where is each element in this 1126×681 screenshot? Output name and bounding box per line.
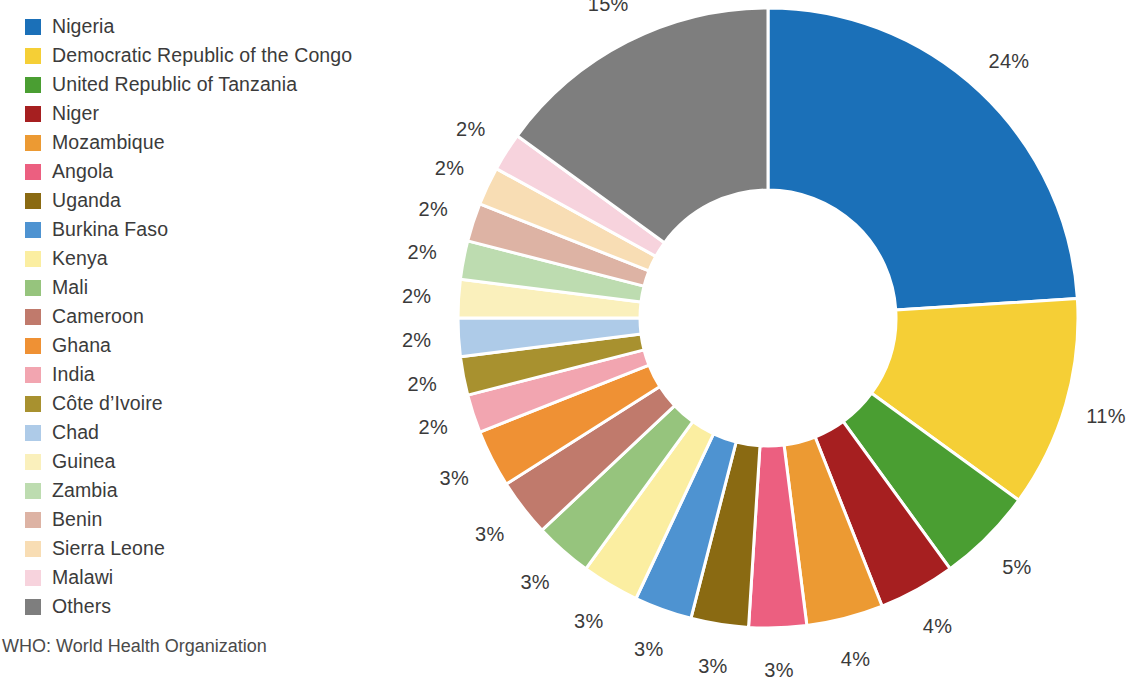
donut-slice [480, 365, 660, 484]
legend-item: Uganda [25, 186, 395, 215]
donut-slice [458, 318, 641, 357]
donut-slice [768, 8, 1077, 310]
slice-percentage-label: 3% [634, 638, 664, 661]
legend-swatch [25, 338, 41, 354]
legend-item: Niger [25, 99, 395, 128]
slice-percentage-label: 3% [698, 654, 728, 677]
donut-slice [843, 393, 1019, 569]
legend-swatch [25, 367, 41, 383]
slice-percentage-label: 2% [407, 372, 437, 395]
legend-swatch [25, 280, 41, 296]
legend-item-label: Mali [52, 278, 88, 298]
donut-slice [586, 422, 714, 599]
donut-slice [815, 422, 950, 607]
legend-item: Sierra Leone [25, 534, 395, 563]
legend-swatch [25, 222, 41, 238]
slice-percentage-label: 3% [440, 466, 470, 489]
footnote-text: WHO: World Health Organization [2, 636, 267, 657]
legend-item: Côte d’Ivoire [25, 389, 395, 418]
legend-item-label: Kenya [52, 249, 108, 269]
legend-item-label: India [52, 365, 95, 385]
legend-item: Nigeria [25, 12, 395, 41]
legend-item: Burkina Faso [25, 215, 395, 244]
legend-item: United Republic of Tanzania [25, 70, 395, 99]
slice-percentage-label: 3% [574, 609, 604, 632]
legend-item-label: Côte d’Ivoire [52, 394, 163, 414]
legend-item: Ghana [25, 331, 395, 360]
legend-swatch [25, 512, 41, 528]
legend-item-label: Democratic Republic of the Congo [52, 46, 352, 66]
legend-item-label: Cameroon [52, 307, 144, 327]
legend-item-label: Ghana [52, 336, 111, 356]
legend-item-label: Angola [52, 162, 113, 182]
slice-percentage-label: 2% [418, 415, 448, 438]
slice-percentage-label: 3% [764, 658, 794, 681]
legend-item-label: Others [52, 597, 111, 617]
legend-item: Zambia [25, 476, 395, 505]
legend-swatch [25, 164, 41, 180]
legend-swatch [25, 570, 41, 586]
legend-item: Benin [25, 505, 395, 534]
legend-swatch [25, 541, 41, 557]
slice-percentage-label: 15% [588, 0, 629, 16]
legend-swatch [25, 454, 41, 470]
legend-swatch [25, 251, 41, 267]
slice-percentage-label: 5% [1002, 555, 1032, 578]
legend-swatch [25, 48, 41, 64]
slice-percentage-label: 2% [435, 157, 465, 180]
legend-item-label: Burkina Faso [52, 220, 168, 240]
slice-percentage-label: 2% [402, 329, 432, 352]
legend-item-label: Chad [52, 423, 99, 443]
legend-swatch [25, 309, 41, 325]
legend-swatch [25, 106, 41, 122]
legend-item: Others [25, 592, 395, 621]
donut-slice [458, 279, 641, 318]
donut-slice [506, 387, 674, 531]
legend-item: Angola [25, 157, 395, 186]
donut-slice [460, 241, 644, 302]
legend-item-label: Uganda [52, 191, 121, 211]
donut-slice [542, 406, 693, 569]
legend-swatch [25, 599, 41, 615]
legend-swatch [25, 135, 41, 151]
slice-percentage-label: 11% [1086, 405, 1125, 428]
donut-slice [636, 434, 736, 618]
legend-item: Democratic Republic of the Congo [25, 41, 395, 70]
legend-item: Kenya [25, 244, 395, 273]
legend-item-label: Guinea [52, 452, 115, 472]
legend-item: Malawi [25, 563, 395, 592]
donut-slice [691, 442, 760, 627]
donut-slice [517, 8, 768, 243]
donut-slice [872, 299, 1078, 501]
chart-legend: NigeriaDemocratic Republic of the CongoU… [25, 12, 395, 621]
slice-percentage-label: 4% [923, 615, 953, 638]
legend-item: Mali [25, 273, 395, 302]
legend-item: Mozambique [25, 128, 395, 157]
legend-item-label: United Republic of Tanzania [52, 75, 297, 95]
slice-percentage-label: 24% [988, 50, 1029, 73]
legend-item-label: Malawi [52, 568, 113, 588]
slice-percentage-label: 4% [841, 647, 871, 670]
slice-percentage-label: 2% [407, 241, 437, 264]
legend-swatch [25, 483, 41, 499]
legend-item-label: Niger [52, 104, 99, 124]
legend-item: India [25, 360, 395, 389]
legend-swatch [25, 77, 41, 93]
donut-slice [480, 169, 656, 271]
donut-slice [784, 437, 882, 626]
donut-slice [468, 204, 649, 286]
slice-percentage-label: 2% [402, 284, 432, 307]
slice-percentage-label: 3% [475, 522, 505, 545]
legend-swatch [25, 396, 41, 412]
legend-item-label: Mozambique [52, 133, 165, 153]
legend-swatch [25, 425, 41, 441]
legend-item-label: Zambia [52, 481, 118, 501]
slice-percentage-label: 2% [456, 118, 486, 141]
slice-percentage-label: 2% [418, 198, 448, 221]
donut-slice [496, 136, 664, 257]
legend-item: Cameroon [25, 302, 395, 331]
donut-slice [460, 334, 644, 395]
legend-item: Chad [25, 418, 395, 447]
donut-slice [468, 350, 649, 432]
